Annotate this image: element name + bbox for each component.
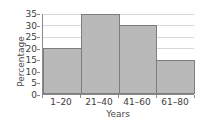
- y-tick-label: 10: [26, 67, 37, 76]
- x-tick-label: 21–40: [80, 97, 118, 109]
- bar-41-60: [119, 25, 158, 94]
- bar-21-40: [81, 14, 120, 94]
- y-tick-mark: [37, 72, 40, 73]
- y-tick-label: 15: [26, 56, 37, 65]
- x-tick-label: 61–80: [156, 97, 194, 109]
- y-tick-mark: [37, 37, 40, 38]
- y-tick-mark: [37, 49, 40, 50]
- y-tick-mark: [37, 60, 40, 61]
- bar-61-80: [156, 60, 195, 94]
- y-tick-label: 20: [26, 44, 37, 53]
- y-tick-mark: [37, 95, 40, 96]
- bar-1-20: [43, 48, 82, 94]
- x-tick-label: 1–20: [42, 97, 80, 109]
- y-tick-label: 35: [26, 10, 37, 19]
- y-tick-label: 30: [26, 21, 37, 30]
- x-axis-tick-labels: 1–20 21–40 41–60 61–80: [42, 97, 194, 109]
- plot-area: [42, 14, 194, 95]
- bar-series: [43, 14, 194, 94]
- x-tick-mark: [194, 95, 195, 98]
- y-tick-mark: [37, 14, 40, 15]
- x-tick-label: 41–60: [118, 97, 156, 109]
- x-axis-label: Years: [42, 109, 194, 119]
- histogram-chart: Percentage 0 5 10 15 20 25 30 35: [0, 0, 209, 123]
- y-axis-tick-labels: 0 5 10 15 20 25 30 35: [0, 14, 40, 95]
- y-tick-mark: [37, 26, 40, 27]
- y-tick-mark: [37, 83, 40, 84]
- y-tick-label: 25: [26, 33, 37, 42]
